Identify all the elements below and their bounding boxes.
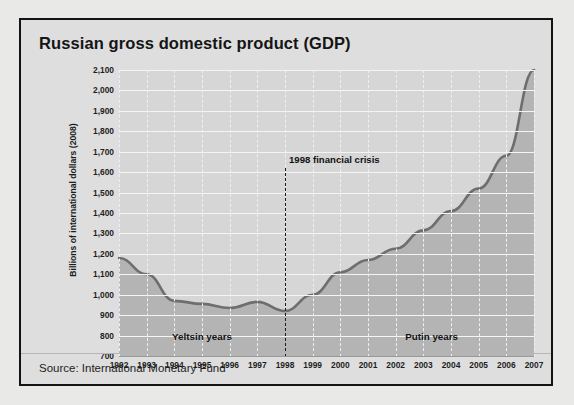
y-gridline	[119, 315, 534, 316]
chart-panel: Russian gross domestic product (GDP) Bil…	[19, 18, 553, 386]
y-axis-tick-label: 900	[100, 310, 114, 320]
y-axis-tick-label: 1,800	[93, 126, 114, 136]
x-axis-tick-label: 1999	[303, 360, 322, 370]
x-axis-tick-label: 2007	[525, 360, 544, 370]
y-axis-tick-label: 1,900	[93, 106, 114, 116]
x-gridline	[257, 70, 258, 356]
screenshot-root: Russian gross domestic product (GDP) Bil…	[0, 0, 574, 405]
x-gridline	[451, 70, 452, 356]
x-gridline	[423, 70, 424, 356]
y-gridline	[119, 90, 534, 91]
crisis-marker-line	[285, 168, 286, 356]
x-gridline	[534, 70, 535, 356]
era-yeltsin-label: Yeltsin years	[172, 331, 232, 342]
x-axis-tick-label: 1997	[248, 360, 267, 370]
x-axis-tick-label: 1998	[276, 360, 295, 370]
x-gridline	[202, 70, 203, 356]
plot-wrapper: Billions of international dollars (2008)…	[21, 20, 555, 388]
y-axis-tick-label: 1,500	[93, 188, 114, 198]
x-gridline	[368, 70, 369, 356]
y-gridline	[119, 213, 534, 214]
y-axis-tick-label: 1,400	[93, 208, 114, 218]
y-gridline	[119, 356, 534, 357]
y-gridline	[119, 131, 534, 132]
y-axis-tick-label: 2,100	[93, 65, 114, 75]
x-axis-tick-label: 2000	[331, 360, 350, 370]
x-axis-tick-label: 2004	[442, 360, 461, 370]
y-axis-tick-label: 1,300	[93, 228, 114, 238]
y-gridline	[119, 193, 534, 194]
plot-area: 2,1002,0001,9001,8001,7001,6001,5001,400…	[119, 70, 534, 356]
y-gridline	[119, 70, 534, 71]
x-axis-tick-label: 2003	[414, 360, 433, 370]
y-gridline	[119, 172, 534, 173]
x-axis-tick-label: 2001	[359, 360, 378, 370]
y-gridline	[119, 233, 534, 234]
x-gridline	[313, 70, 314, 356]
y-axis-tick-label: 2,000	[93, 85, 114, 95]
x-axis-tick-label: 2002	[386, 360, 405, 370]
x-gridline	[506, 70, 507, 356]
footer-divider	[21, 353, 551, 354]
x-gridline	[119, 70, 120, 356]
y-axis-tick-label: 1,200	[93, 249, 114, 259]
y-gridline	[119, 274, 534, 275]
y-axis-tick-label: 800	[100, 331, 114, 341]
y-axis-tick-label: 1,100	[93, 269, 114, 279]
crisis-annotation-label: 1998 financial crisis	[289, 154, 380, 165]
era-putin-label: Putin years	[405, 331, 458, 342]
x-axis-tick-label: 2005	[469, 360, 488, 370]
y-gridline	[119, 152, 534, 153]
y-gridline	[119, 254, 534, 255]
y-axis-label: Billions of international dollars (2008)	[68, 0, 78, 100]
x-gridline	[147, 70, 148, 356]
y-gridline	[119, 295, 534, 296]
y-axis-tick-label: 1,600	[93, 167, 114, 177]
x-gridline	[340, 70, 341, 356]
y-axis-tick-label: 1,000	[93, 290, 114, 300]
x-axis-tick-label: 2006	[497, 360, 516, 370]
y-gridline	[119, 111, 534, 112]
x-gridline	[230, 70, 231, 356]
x-gridline	[174, 70, 175, 356]
x-gridline	[396, 70, 397, 356]
x-gridline	[479, 70, 480, 356]
y-axis-tick-label: 1,700	[93, 147, 114, 157]
source-note: Source: International Monetary Fund	[39, 362, 226, 374]
